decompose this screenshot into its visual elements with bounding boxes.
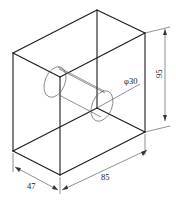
- depth-dimension: 47: [13, 153, 58, 191]
- diameter-label: φ30: [124, 76, 137, 86]
- edge-bottom-left-back: [13, 108, 97, 151]
- edge-bottom-left-front: [13, 151, 60, 175]
- arrow-left-icon: [62, 185, 68, 190]
- edge-bottom-front-right: [60, 132, 145, 175]
- height-label: 95: [154, 70, 164, 79]
- depth-label: 47: [27, 181, 36, 191]
- width-label: 85: [101, 172, 110, 182]
- arrow-up-icon: [163, 29, 167, 35]
- arrow-down-icon: [163, 115, 167, 121]
- hole-ellipse-right: [87, 87, 118, 124]
- edge-top-back-right: [97, 10, 145, 33]
- edge-bottom-back-right: [97, 108, 145, 132]
- height-extension-bottom: [145, 126, 170, 132]
- width-dim-line: [62, 150, 147, 190]
- edge-top-front-right: [60, 33, 145, 77]
- isometric-drawing: φ30 95 85 47: [0, 0, 176, 212]
- height-extension-top: [145, 27, 170, 33]
- edge-top-left-back: [13, 10, 97, 53]
- width-dimension: 85: [60, 134, 147, 194]
- diameter-leader-line: [97, 84, 140, 108]
- arrow-right-icon: [52, 185, 58, 190]
- height-dimension: 95: [145, 27, 170, 132]
- arrow-left-icon: [15, 167, 21, 172]
- arrow-right-icon: [141, 150, 147, 156]
- edge-top-left-front: [13, 53, 60, 77]
